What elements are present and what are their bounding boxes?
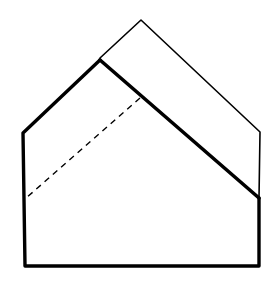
fold-edge-line <box>100 60 259 198</box>
front-body-outline <box>23 60 259 266</box>
folding-diagram <box>0 0 276 287</box>
outer-flap-outline <box>100 20 260 198</box>
diagram-svg <box>0 0 276 287</box>
